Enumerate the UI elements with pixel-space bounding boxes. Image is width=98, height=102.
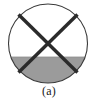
figure-container: (a) [0, 0, 98, 102]
figure-caption: (a) [0, 84, 98, 99]
